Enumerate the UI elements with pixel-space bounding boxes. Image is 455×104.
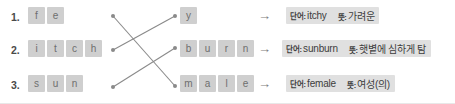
meaning-label: 뜻: (338, 11, 347, 22)
meaning-segment-3: 뜻: 여성(의) (347, 76, 390, 91)
word-label: 단어: (290, 10, 306, 21)
answer-strip-2: 단어: sunburn 뜻: 햇볕에 심하게 탐 (282, 40, 431, 57)
word-value: itchy (307, 10, 327, 21)
letter-tile[interactable]: m (180, 75, 197, 92)
meaning-segment-1: 뜻: 가려운 (338, 8, 375, 23)
meaning-value: 햇볕에 심하게 탐 (359, 41, 426, 56)
answer-strip-1: 단어: itchy 뜻: 가려운 (286, 7, 379, 24)
meaning-label: 뜻: (347, 79, 356, 90)
right-letter-tiles-3: m a l e (180, 75, 254, 92)
meaning-label: 뜻: (349, 44, 358, 55)
letter-tile[interactable]: f (28, 7, 45, 24)
letter-tile[interactable]: b (180, 40, 197, 57)
letter-tile[interactable]: r (218, 40, 235, 57)
word-matching-worksheet: 1. f e y → 단어: itchy 뜻: 가려운 2. i t c (0, 0, 455, 104)
word-label: 단어: (286, 43, 302, 54)
answer-strip-3: 단어: female 뜻: 여성(의) (286, 75, 395, 92)
meaning-segment-2: 뜻: 햇볕에 심하게 탐 (349, 41, 426, 56)
letter-tile[interactable]: t (47, 40, 64, 57)
letter-tile[interactable]: a (199, 75, 216, 92)
word-value: sunburn (303, 43, 338, 54)
letter-tile[interactable]: n (66, 75, 83, 92)
letter-tile[interactable]: e (47, 7, 64, 24)
letter-tile[interactable]: n (237, 40, 254, 57)
right-letter-tiles-2: b u r n (180, 40, 254, 57)
exercise-row-1: 1. f e y → 단어: itchy 뜻: 가려운 (0, 3, 455, 35)
letter-tile[interactable]: u (199, 40, 216, 57)
letter-tile[interactable]: u (47, 75, 64, 92)
meaning-value: 가려운 (348, 8, 374, 23)
word-label: 단어: (290, 78, 306, 89)
word-segment-3: 단어: female (290, 78, 336, 89)
left-letter-tiles-1: f e (28, 7, 64, 24)
letter-tile[interactable]: h (85, 40, 102, 57)
left-letter-tiles-3: s u n (28, 75, 83, 92)
right-letter-tiles-1: y (180, 7, 197, 24)
word-segment-2: 단어: sunburn (286, 43, 338, 54)
word-value: female (307, 78, 336, 89)
meaning-value: 여성(의) (357, 76, 390, 91)
arrow-right-icon: → (258, 75, 271, 92)
word-segment-1: 단어: itchy (290, 10, 327, 21)
letter-tile[interactable]: e (237, 75, 254, 92)
row-number-2: 2. (11, 37, 27, 63)
arrow-right-icon: → (258, 7, 271, 24)
letter-tile[interactable]: l (218, 75, 235, 92)
row-number-1: 1. (11, 4, 27, 30)
exercise-row-2: 2. i t c h b u r n → 단어: sunburn 뜻: 햇볕에 … (0, 36, 455, 68)
left-letter-tiles-2: i t c h (28, 40, 102, 57)
arrow-right-icon: → (258, 40, 271, 57)
letter-tile[interactable]: i (28, 40, 45, 57)
exercise-row-3: 3. s u n m a l e → 단어: female 뜻: 여성(의) (0, 71, 455, 103)
row-number-3: 3. (11, 72, 27, 98)
letter-tile[interactable]: s (28, 75, 45, 92)
letter-tile[interactable]: c (66, 40, 83, 57)
letter-tile[interactable]: y (180, 7, 197, 24)
